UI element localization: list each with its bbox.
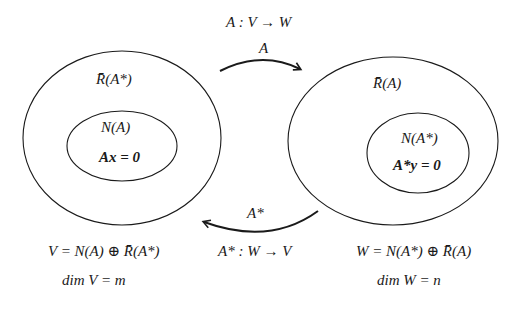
- right-dimension: dim W = n: [377, 273, 441, 288]
- right-outer-label: R̄(A): [373, 76, 401, 91]
- right-inner-label: N(A*): [401, 131, 438, 146]
- diagram-canvas: A : V → W A R̄(A*) N(A) Ax = 0 V = N(A) …: [0, 0, 518, 312]
- map-Astar-title: A* : W → V: [218, 244, 291, 259]
- map-A-title: A : V → W: [226, 15, 291, 30]
- left-inner-equation: Ax = 0: [99, 150, 140, 165]
- left-dimension: dim V = m: [62, 273, 126, 288]
- arrow-Astar-label: A*: [247, 206, 264, 221]
- arrow-A-label: A: [259, 41, 268, 56]
- left-decomposition: V = N(A) ⊕ R̄(A*): [48, 244, 160, 259]
- left-outer-label: R̄(A*): [96, 72, 132, 87]
- left-inner-label: N(A): [101, 120, 130, 135]
- right-inner-equation: A*y = 0: [393, 158, 441, 173]
- right-inner-ellipse: [367, 113, 469, 193]
- right-decomposition: W = N(A*) ⊕ R̄(A): [356, 244, 471, 259]
- arrow-A: [220, 60, 300, 71]
